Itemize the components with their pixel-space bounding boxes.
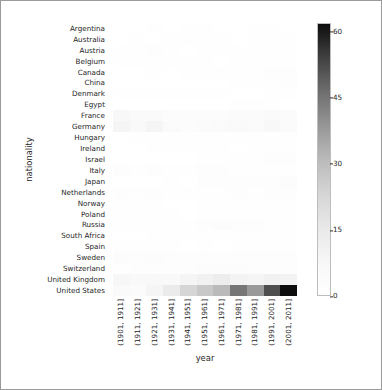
x-tick-slot: (1921, 1931] xyxy=(146,297,163,349)
heatmap-cell xyxy=(146,230,163,241)
heatmap-cell xyxy=(197,143,214,154)
heatmap-plot-area xyxy=(113,23,297,296)
colorbar-tick-mark xyxy=(330,296,333,297)
heatmap-cell xyxy=(113,110,130,121)
heatmap-cell xyxy=(213,241,230,252)
heatmap-cell xyxy=(163,121,180,132)
heatmap-cell xyxy=(247,230,264,241)
y-tick-label: Denmark xyxy=(1,89,109,100)
heatmap-cell xyxy=(213,274,230,285)
heatmap-cell xyxy=(247,23,264,34)
heatmap-cell xyxy=(180,209,197,220)
heatmap-cell xyxy=(213,143,230,154)
x-tick-slot: (1951, 1961] xyxy=(197,297,214,349)
heatmap-cell xyxy=(130,165,147,176)
x-tick-label: (1951, 1961] xyxy=(201,299,208,346)
heatmap-cell xyxy=(163,110,180,121)
heatmap-cell xyxy=(230,110,247,121)
heatmap-cell xyxy=(197,45,214,56)
heatmap-cell xyxy=(213,252,230,263)
heatmap-cell xyxy=(264,121,281,132)
x-tick-label: (2001, 2011] xyxy=(285,299,292,346)
heatmap-cell xyxy=(264,45,281,56)
heatmap-cell xyxy=(180,263,197,274)
heatmap-cell xyxy=(163,165,180,176)
heatmap-cell xyxy=(130,99,147,110)
heatmap-cell xyxy=(230,56,247,67)
heatmap-cell xyxy=(163,198,180,209)
heatmap-cell xyxy=(264,78,281,89)
heatmap-cell xyxy=(180,132,197,143)
heatmap-cell xyxy=(213,78,230,89)
heatmap-cell xyxy=(163,285,180,296)
heatmap-cell xyxy=(280,154,297,165)
colorbar-ticklabels: 015304560 xyxy=(333,23,367,296)
heatmap-cell xyxy=(146,252,163,263)
heatmap-cell xyxy=(180,176,197,187)
heatmap-cell xyxy=(230,252,247,263)
heatmap-cell xyxy=(113,23,130,34)
heatmap-cell xyxy=(146,209,163,220)
heatmap-cell xyxy=(230,132,247,143)
heatmap-cell xyxy=(247,187,264,198)
heatmap-cell xyxy=(213,99,230,110)
heatmap-cell xyxy=(130,252,147,263)
y-tick-label: Japan xyxy=(1,176,109,187)
heatmap-cell xyxy=(163,23,180,34)
heatmap-cell xyxy=(130,241,147,252)
heatmap-cell xyxy=(230,230,247,241)
y-tick-label: Israel xyxy=(1,154,109,165)
heatmap-cell xyxy=(197,241,214,252)
heatmap-cell xyxy=(247,78,264,89)
heatmap-cell xyxy=(280,230,297,241)
heatmap-cell xyxy=(247,252,264,263)
heatmap-cell xyxy=(163,45,180,56)
heatmap-cell xyxy=(230,209,247,220)
heatmap-cell xyxy=(264,198,281,209)
heatmap-cell xyxy=(280,187,297,198)
heatmap-cell xyxy=(180,230,197,241)
heatmap-cell xyxy=(113,263,130,274)
heatmap-cell xyxy=(264,110,281,121)
heatmap-cell xyxy=(163,34,180,45)
y-tick-label: Netherlands xyxy=(1,187,109,198)
heatmap-cell xyxy=(130,220,147,231)
heatmap-cell xyxy=(280,132,297,143)
heatmap-cell xyxy=(113,132,130,143)
heatmap-cell xyxy=(197,165,214,176)
heatmap-cell xyxy=(247,99,264,110)
x-tick-label: (1991, 2001] xyxy=(268,299,275,346)
heatmap-cell xyxy=(264,154,281,165)
heatmap-cell xyxy=(130,143,147,154)
heatmap-cell xyxy=(130,67,147,78)
heatmap-cell xyxy=(264,241,281,252)
heatmap-cell xyxy=(197,263,214,274)
heatmap-cell xyxy=(230,78,247,89)
y-tick-label: Austria xyxy=(1,45,109,56)
heatmap-cell xyxy=(247,143,264,154)
heatmap-cell xyxy=(230,241,247,252)
heatmap-cell xyxy=(247,165,264,176)
heatmap-cell xyxy=(197,23,214,34)
x-tick-slot: (1961, 1971] xyxy=(213,297,230,349)
y-tick-label: Sweden xyxy=(1,252,109,263)
heatmap-cell xyxy=(213,198,230,209)
heatmap-cell xyxy=(130,56,147,67)
heatmap-cell xyxy=(280,89,297,100)
heatmap-cell xyxy=(113,34,130,45)
heatmap-cell xyxy=(130,89,147,100)
heatmap-cell xyxy=(130,78,147,89)
heatmap-cell xyxy=(163,209,180,220)
heatmap-cell xyxy=(180,34,197,45)
heatmap-cell xyxy=(230,67,247,78)
heatmap-cell xyxy=(146,198,163,209)
colorbar-tick-label: 45 xyxy=(333,94,342,101)
heatmap-cell xyxy=(197,176,214,187)
heatmap-cell xyxy=(247,110,264,121)
heatmap-cell xyxy=(163,56,180,67)
heatmap-cell xyxy=(130,263,147,274)
heatmap-cell xyxy=(180,165,197,176)
heatmap-cell xyxy=(280,67,297,78)
heatmap-cell xyxy=(113,198,130,209)
heatmap-cell xyxy=(264,176,281,187)
